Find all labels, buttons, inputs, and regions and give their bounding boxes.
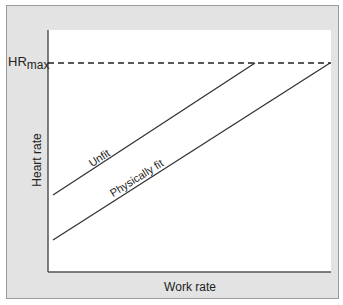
y-axis-label: Heart rate (30, 133, 44, 186)
hrmax-label-main: HR (8, 54, 27, 69)
hrmax-label-sub: max (27, 58, 50, 72)
x-axis-label: Work rate (164, 280, 216, 294)
hrmax-label: HRmax (8, 54, 49, 72)
physically-fit-line (53, 63, 330, 240)
chart-svg (0, 0, 343, 305)
